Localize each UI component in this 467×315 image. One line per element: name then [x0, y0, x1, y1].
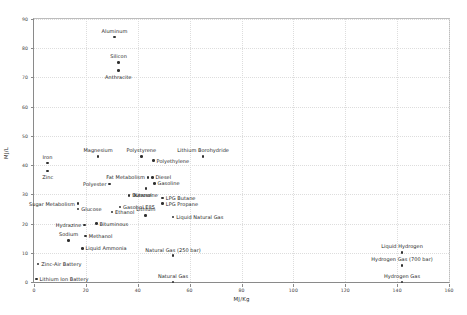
gridline-horizontal: [34, 253, 449, 254]
data-point: [147, 176, 150, 179]
data-point-label: Fat Metabolism: [106, 175, 145, 180]
y-axis-tick: [31, 253, 34, 254]
energy-density-scatter-figure: 0204060801001201401600102030405060708090…: [0, 0, 467, 315]
y-axis-tick: [31, 165, 34, 166]
data-point-label: Gasoline: [158, 181, 180, 186]
x-axis-tick: [34, 284, 35, 287]
gridline-horizontal: [34, 136, 449, 137]
x-axis-tick-label: 160: [444, 288, 453, 293]
data-point: [151, 176, 154, 179]
x-axis-tick: [190, 284, 191, 287]
x-axis-tick: [138, 284, 139, 287]
data-point-label: Hydrazine: [56, 223, 82, 228]
data-point: [152, 159, 155, 162]
x-axis-tick-label: 20: [83, 288, 89, 293]
y-axis-tick-label: 80: [22, 46, 28, 51]
gridline-horizontal: [34, 48, 449, 49]
data-point: [77, 202, 80, 205]
data-point-label: Polystyrene: [127, 148, 157, 153]
data-point: [172, 216, 175, 219]
data-point: [161, 202, 164, 205]
x-axis-title: MJ/Kg: [33, 296, 450, 302]
gridline-vertical: [345, 19, 346, 282]
x-axis-tick-label: 100: [289, 288, 298, 293]
data-point-label: Natural Gas (250 bar): [145, 248, 201, 253]
data-point: [144, 214, 147, 217]
gridline-horizontal: [34, 107, 449, 108]
data-point-label: Magnesium: [83, 148, 112, 153]
data-point-label: Silicon: [110, 54, 127, 59]
data-point: [46, 162, 49, 165]
data-point-label: Lithium Borohydride: [177, 148, 229, 153]
y-axis-tick-label: 10: [22, 250, 28, 255]
gridline-vertical: [293, 19, 294, 282]
y-axis-tick-label: 60: [22, 104, 28, 109]
data-point: [95, 222, 98, 225]
data-point: [111, 211, 114, 214]
data-point-label: Methanol: [89, 233, 113, 238]
data-point: [84, 235, 87, 238]
plot-area: 0204060801001201401600102030405060708090…: [33, 18, 450, 283]
data-point-label: Lithium Ion Battery: [40, 277, 89, 282]
data-point: [77, 208, 80, 211]
data-point: [108, 183, 111, 186]
y-axis-title: MJ/L: [3, 147, 9, 159]
data-point: [172, 281, 175, 284]
x-axis-tick-label: 80: [238, 288, 244, 293]
y-axis-tick: [31, 224, 34, 225]
data-point-label: Hydrogen Gas: [384, 274, 420, 279]
data-point-label: Polyethylene: [157, 158, 190, 163]
y-axis-tick: [31, 136, 34, 137]
gridline-horizontal: [34, 194, 449, 195]
gridline-horizontal: [34, 19, 449, 20]
data-point-label: Liquid Ammonia: [85, 246, 126, 251]
data-point: [35, 278, 38, 281]
gridline-vertical: [449, 19, 450, 282]
data-point-label: Bituminous: [99, 221, 128, 226]
data-point-label: Sugar Metabolism: [29, 201, 75, 206]
data-point-label: Lithium: [136, 207, 155, 212]
y-axis-tick-label: 0: [25, 280, 28, 285]
data-point: [172, 254, 175, 257]
data-point: [67, 239, 70, 242]
gridline-horizontal: [34, 77, 449, 78]
x-axis-tick-label: 60: [187, 288, 193, 293]
x-axis-tick: [397, 284, 398, 287]
data-point-label: Sodium: [59, 232, 78, 237]
x-axis-tick-label: 120: [341, 288, 350, 293]
data-point-label: Natural Gas: [158, 274, 188, 279]
data-point: [401, 281, 404, 284]
y-axis-tick: [31, 107, 34, 108]
x-axis-tick: [449, 284, 450, 287]
x-axis-tick: [242, 284, 243, 287]
data-point: [140, 155, 143, 158]
data-point: [153, 182, 156, 185]
y-axis-tick: [31, 48, 34, 49]
data-point: [81, 247, 84, 250]
data-point-label: Hydrogen Gas (700 bar): [371, 257, 432, 262]
data-point-label: Glucose: [81, 206, 101, 211]
data-point: [117, 61, 120, 64]
data-point-label: Aluminum: [101, 29, 127, 34]
data-point-label: Iron: [43, 155, 53, 160]
data-point: [128, 194, 131, 197]
y-axis-tick: [31, 282, 34, 283]
data-point-label: Ethanol: [115, 209, 134, 214]
gridline-vertical: [242, 19, 243, 282]
data-point-label: Anthracite: [105, 74, 132, 79]
data-point: [97, 155, 100, 158]
y-axis-tick-label: 40: [22, 163, 28, 168]
data-point: [117, 69, 120, 72]
data-point-label: Zinc: [42, 175, 53, 180]
data-point: [46, 170, 49, 173]
gridline-horizontal: [34, 165, 449, 166]
data-point-label: Liquid Hydrogen: [381, 244, 423, 249]
data-point-label: Polyester: [83, 181, 106, 186]
x-axis-tick-label: 0: [32, 288, 35, 293]
x-axis-tick: [293, 284, 294, 287]
y-axis-tick-label: 70: [22, 75, 28, 80]
x-axis-tick-label: 40: [135, 288, 141, 293]
data-point: [37, 263, 40, 266]
data-point-label: Liquid Natural Gas: [176, 215, 223, 220]
y-axis-tick-label: 50: [22, 133, 28, 138]
